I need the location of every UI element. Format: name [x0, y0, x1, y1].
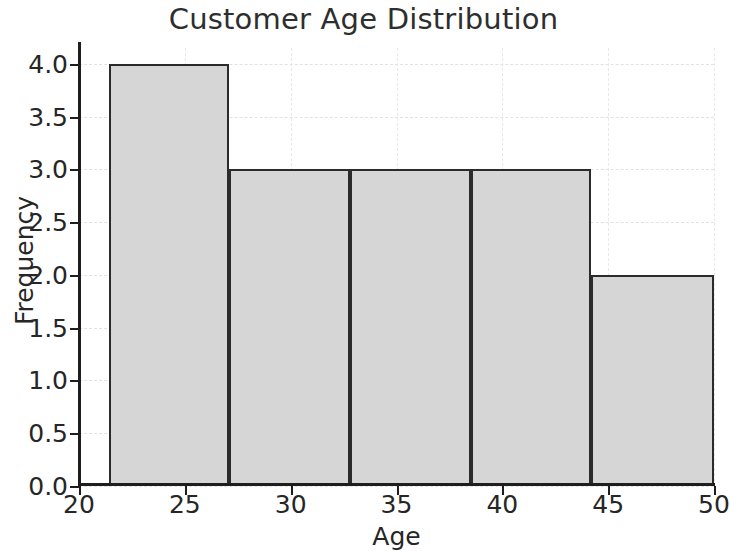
- y-tick-label: 0.5: [28, 421, 68, 446]
- y-tick-label: 3.5: [28, 105, 68, 130]
- x-axis-label: Age: [79, 522, 714, 551]
- x-tick-label: 35: [381, 492, 413, 517]
- chart-title: Customer Age Distribution: [0, 2, 727, 36]
- y-tick-mark: [70, 486, 79, 488]
- x-tick-label: 20: [63, 492, 95, 517]
- y-tick-mark: [70, 275, 79, 277]
- y-tick-mark: [70, 64, 79, 66]
- y-tick-mark: [70, 169, 79, 171]
- y-tick-mark: [70, 328, 79, 330]
- y-axis-spine: [78, 42, 81, 486]
- y-tick-label: 0.0: [28, 474, 68, 499]
- y-tick-mark: [70, 433, 79, 435]
- y-tick-label: 4.0: [28, 52, 68, 77]
- y-tick-mark: [70, 117, 79, 119]
- axis-spines: [79, 48, 714, 486]
- x-tick-label: 45: [592, 492, 624, 517]
- y-axis-label: Frequency: [10, 141, 39, 381]
- x-tick-label: 50: [698, 492, 730, 517]
- y-tick-mark: [70, 380, 79, 382]
- x-tick-label: 30: [275, 492, 307, 517]
- x-tick-label: 25: [169, 492, 201, 517]
- y-tick-mark: [70, 222, 79, 224]
- x-tick-label: 40: [486, 492, 518, 517]
- gridline-vertical: [714, 48, 715, 486]
- plot-area: [79, 48, 714, 486]
- x-axis-tick-labels: 20253035404550: [79, 492, 714, 524]
